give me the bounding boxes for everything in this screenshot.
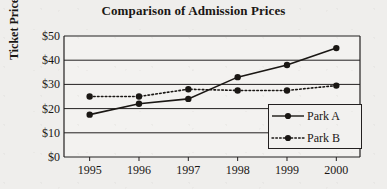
legend-item-park-b: Park B [269, 128, 363, 148]
chart-legend: Park A Park B [268, 104, 362, 149]
plot-area [0, 0, 387, 189]
admission-prices-chart: Comparison of Admission Prices Ticket Pr… [0, 0, 387, 189]
legend-sample-dotted-line-icon [269, 130, 307, 146]
legend-item-park-a: Park A [269, 106, 363, 126]
legend-sample-solid-line-icon [269, 108, 307, 124]
legend-label-park-b: Park B [307, 131, 340, 146]
legend-label-park-a: Park A [307, 109, 340, 124]
